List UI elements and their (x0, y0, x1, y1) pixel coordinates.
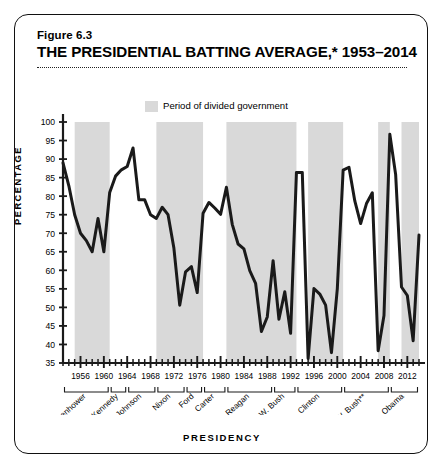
x-axis-title: PRESIDENCY (15, 432, 429, 443)
y-axis-title: PERCENTAGE (13, 146, 23, 225)
svg-text:2004: 2004 (351, 371, 370, 381)
svg-text:G. H. W. Bush: G. H. W. Bush (242, 392, 287, 415)
svg-text:1964: 1964 (118, 371, 137, 381)
legend-swatch (145, 101, 158, 112)
legend-label: Period of divided government (163, 100, 288, 111)
svg-text:40: 40 (45, 340, 55, 350)
svg-text:80: 80 (45, 192, 55, 202)
svg-text:1980: 1980 (211, 371, 230, 381)
figure-card: Figure 6.3 THE PRESIDENTIAL BATTING AVER… (14, 14, 428, 454)
svg-text:1972: 1972 (165, 371, 184, 381)
svg-text:1956: 1956 (71, 371, 90, 381)
svg-text:1976: 1976 (188, 371, 207, 381)
svg-text:2012: 2012 (398, 371, 417, 381)
svg-text:2000: 2000 (328, 371, 347, 381)
svg-text:65: 65 (45, 247, 55, 257)
svg-text:1968: 1968 (141, 371, 160, 381)
svg-text:1996: 1996 (305, 371, 324, 381)
svg-text:1988: 1988 (258, 371, 277, 381)
svg-text:G. W. Bush**: G. W. Bush** (326, 391, 368, 415)
svg-text:Eisenhower: Eisenhower (50, 392, 88, 415)
svg-text:45: 45 (45, 321, 55, 331)
svg-text:50: 50 (45, 303, 55, 313)
svg-text:90: 90 (45, 154, 55, 164)
figure-title: THE PRESIDENTIAL BATTING AVERAGE,* 1953–… (37, 43, 417, 60)
svg-text:60: 60 (45, 266, 55, 276)
president-labels: EisenhowerKennedyJohnsonNixonFordCarterR… (50, 391, 406, 415)
svg-text:1992: 1992 (281, 371, 300, 381)
svg-text:70: 70 (45, 229, 55, 239)
svg-text:Nixon: Nixon (151, 392, 173, 413)
svg-text:1984: 1984 (235, 371, 254, 381)
svg-text:Johnson: Johnson (114, 392, 143, 415)
svg-text:Clinton: Clinton (296, 392, 321, 415)
y-axis-tick-labels: 35404550556065707580859095100 (41, 117, 56, 368)
svg-text:Reagan: Reagan (224, 392, 252, 415)
svg-text:100: 100 (41, 117, 56, 127)
svg-text:2008: 2008 (375, 371, 394, 381)
chart-area: Period of divided government PERCENTAGE … (15, 75, 429, 453)
svg-text:55: 55 (45, 284, 55, 294)
title-divider (37, 67, 407, 68)
svg-text:35: 35 (45, 358, 55, 368)
svg-text:75: 75 (45, 210, 55, 220)
svg-text:95: 95 (45, 136, 55, 146)
svg-text:Carter: Carter (193, 392, 216, 414)
divided-government-bands (75, 122, 419, 363)
figure-number: Figure 6.3 (37, 29, 92, 41)
president-brackets (65, 387, 418, 392)
svg-text:85: 85 (45, 173, 55, 183)
x-axis-tick-labels: 1956196019641968197219761980198419881992… (71, 371, 417, 381)
svg-text:1960: 1960 (95, 371, 114, 381)
svg-text:Obama: Obama (380, 392, 406, 415)
line-chart-svg: 35404550556065707580859095100 1956196019… (15, 75, 429, 415)
